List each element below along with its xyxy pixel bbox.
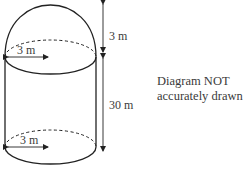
top-ellipse-front xyxy=(5,57,96,74)
bottom-ellipse-back xyxy=(5,130,96,147)
note-line-1: Diagram NOT xyxy=(157,74,243,89)
bottom-ellipse-front xyxy=(5,147,96,164)
note-line-2: accurately drawn xyxy=(157,89,243,104)
cylinder-height-label: 30 m xyxy=(109,98,134,112)
dome-height-label: 3 m xyxy=(109,29,128,43)
top-radius-label: 3 m xyxy=(17,43,36,57)
disclaimer-note: Diagram NOT accurately drawn xyxy=(157,74,243,104)
bottom-radius-label: 3 m xyxy=(20,133,39,147)
